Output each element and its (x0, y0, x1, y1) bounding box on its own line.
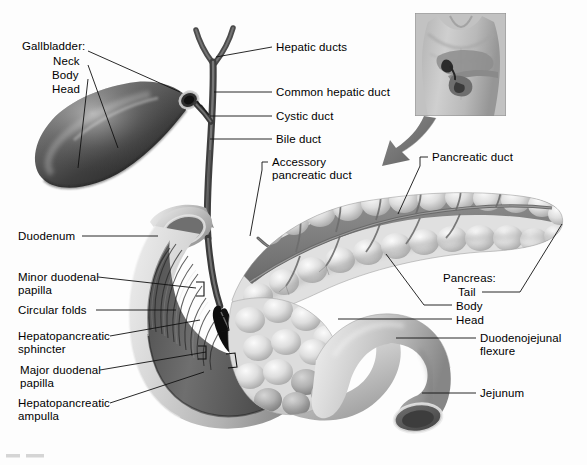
label-gallbladder-body: Body (52, 69, 79, 83)
label-cystic-duct: Cystic duct (276, 110, 334, 124)
label-pancreas-group: Pancreas: (443, 272, 496, 286)
label-bile-duct: Bile duct (276, 133, 321, 147)
label-minor-duodenal-papilla-line2: papilla (18, 284, 52, 298)
label-gallbladder-group: Gallbladder: (22, 40, 85, 54)
label-duodenojejunal-flexure-line2: flexure (480, 345, 515, 359)
label-gallbladder-neck: Neck (53, 55, 80, 69)
figure-canvas: Gallbladder: Neck Body Head Duodenum Min… (0, 0, 587, 465)
label-pancreas-body: Body (456, 300, 483, 314)
label-hepatopancreatic-ampulla: Hepatopancreatic (18, 397, 110, 411)
label-pancreas-head: Head (456, 314, 484, 328)
label-duodenum: Duodenum (18, 230, 75, 244)
label-hepatic-ducts: Hepatic ducts (276, 41, 347, 55)
label-circular-folds: Circular folds (18, 304, 87, 318)
label-accessory-pancreatic-duct-line2: pancreatic duct (272, 169, 352, 183)
label-jejunum: Jejunum (480, 387, 524, 401)
label-hepatopancreatic-ampulla-line2: ampulla (18, 410, 59, 424)
label-accessory-pancreatic-duct: Accessory (272, 156, 326, 170)
label-duodenojejunal-flexure: Duodenojejunal (480, 332, 562, 346)
label-hepatopancreatic-sphincter: Hepatopancreatic (18, 330, 110, 344)
label-gallbladder-head: Head (52, 83, 80, 97)
label-major-duodenal-papilla: Major duodenal (20, 364, 101, 378)
label-major-duodenal-papilla-line2: papilla (20, 377, 54, 391)
label-minor-duodenal-papilla: Minor duodenal (18, 271, 99, 285)
orientation-inset-art (415, 13, 506, 116)
label-pancreatic-duct: Pancreatic duct (432, 151, 513, 165)
label-hepatopancreatic-sphincter-line2: sphincter (18, 343, 66, 357)
label-pancreas-tail: Tail (458, 286, 476, 300)
label-common-hepatic-duct: Common hepatic duct (276, 86, 390, 100)
